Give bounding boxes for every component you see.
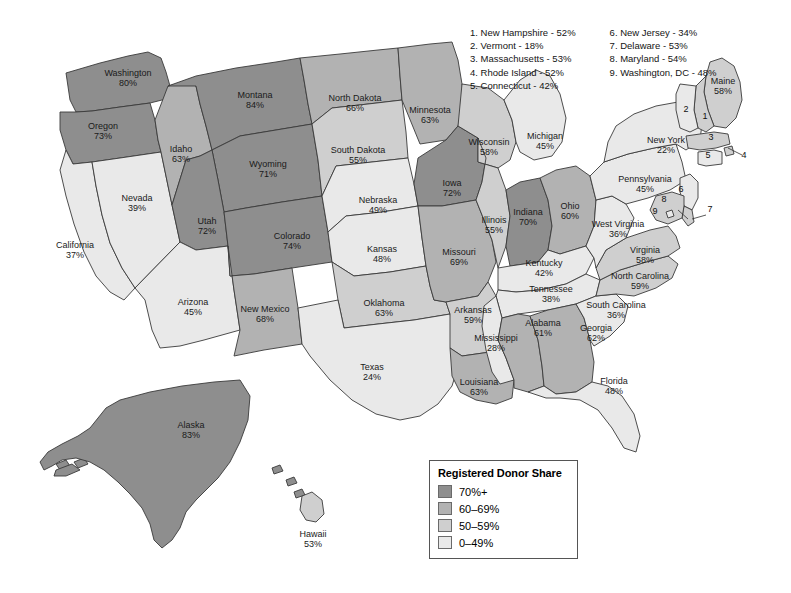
legend-swatch <box>438 485 452 498</box>
callout-number-nh: 1 <box>702 111 707 121</box>
legend-label: 60–69% <box>459 503 499 515</box>
numbered-key-item: 6. New Jersey - 34% <box>610 26 717 39</box>
state-shape-dc[interactable]: Washington, DC 48% <box>666 210 674 218</box>
state-shape-ri[interactable]: Rhode Island 52% <box>724 146 734 156</box>
states-layer: Washington 80%Oregon 73%California 37%Ne… <box>40 42 742 548</box>
callout-number-ri: 4 <box>741 150 746 160</box>
legend-row[interactable]: 60–69% <box>438 500 569 517</box>
numbered-state-key: 1. New Hampshire - 52%2. Vermont - 18%3.… <box>470 26 716 92</box>
state-shape-wa[interactable]: Washington 80% <box>66 52 170 112</box>
legend-row[interactable]: 70%+ <box>438 483 569 500</box>
callout-number-de: 7 <box>707 204 712 214</box>
numbered-key-item: 4. Rhode Island - 52% <box>470 66 576 79</box>
numbered-key-column-1: 1. New Hampshire - 52%2. Vermont - 18%3.… <box>470 26 576 92</box>
callout-number-nj: 6 <box>678 184 683 194</box>
legend-swatch <box>438 519 452 532</box>
island-shape <box>286 477 297 486</box>
state-shape-hi[interactable]: Hawaii 53% <box>300 492 324 522</box>
state-shape-ak[interactable]: Alaska 83% <box>40 380 250 548</box>
legend-label: 0–49% <box>459 537 493 549</box>
numbered-key-column-2: 6. New Jersey - 34%7. Delaware - 53%8. M… <box>610 26 717 92</box>
callout-number-vt: 2 <box>683 104 688 114</box>
numbered-key-item: 2. Vermont - 18% <box>470 39 576 52</box>
island-shape <box>272 465 283 474</box>
numbered-key-item: 1. New Hampshire - 52% <box>470 26 576 39</box>
callout-number-ma: 3 <box>708 132 713 142</box>
callout-number-dc: 9 <box>652 206 657 216</box>
legend-swatch <box>438 536 452 549</box>
legend: Registered Donor Share 70%+60–69%50–59%0… <box>429 460 578 559</box>
state-label-hi: Hawaii53% <box>299 529 326 549</box>
numbered-key-item: 9. Washington, DC - 48% <box>610 66 717 79</box>
legend-label: 50–59% <box>459 520 499 532</box>
legend-swatch <box>438 502 452 515</box>
legend-title: Registered Donor Share <box>438 467 569 479</box>
legend-label: 70%+ <box>459 486 487 498</box>
state-shape-mn[interactable]: Minnesota 63% <box>398 42 464 144</box>
legend-row[interactable]: 0–49% <box>438 534 569 551</box>
legend-items: 70%+60–69%50–59%0–49% <box>438 483 569 551</box>
numbered-key-item: 8. Maryland - 54% <box>610 52 717 65</box>
numbered-key-item: 3. Massachusetts - 53% <box>470 52 576 65</box>
legend-row[interactable]: 50–59% <box>438 517 569 534</box>
state-shape-fl[interactable]: Florida 48% <box>528 382 640 452</box>
us-choropleth-map: Washington 80%Oregon 73%California 37%Ne… <box>0 0 791 593</box>
leader-line-7 <box>692 215 706 219</box>
callout-number-md: 8 <box>661 194 666 204</box>
numbered-key-item: 7. Delaware - 53% <box>610 39 717 52</box>
numbered-key-item: 5. Connecticut - 42% <box>470 79 576 92</box>
callout-number-ct: 5 <box>705 150 710 160</box>
